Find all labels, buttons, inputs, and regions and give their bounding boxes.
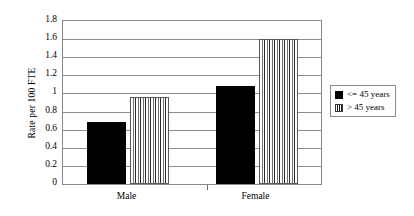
y-axis-tick-label: 1 — [52, 88, 57, 98]
legend-swatch-striped-icon — [335, 104, 343, 112]
x-axis-tick-label-male: Male — [117, 192, 137, 202]
y-axis-tick-label: 0.8 — [45, 106, 57, 116]
bar-female-series-2 — [259, 39, 298, 184]
legend-item-label: <= 45 years — [347, 90, 390, 99]
y-axis-tick-label: 0.4 — [45, 142, 57, 152]
bar-male-series-2 — [130, 97, 169, 184]
y-axis-tick-label: 1.4 — [45, 51, 57, 61]
y-axis-tick-label: 0 — [52, 178, 57, 188]
y-axis-tick-label: 1.8 — [45, 15, 57, 25]
bar-male-series-1 — [87, 122, 126, 184]
x-axis-tick-labels: MaleFemale — [62, 192, 322, 214]
plot-area — [62, 20, 322, 185]
y-axis-tick-label: 1.6 — [45, 33, 57, 43]
y-axis-tick-labels: 1.81.61.41.210.80.60.40.20 — [0, 0, 62, 216]
legend-item-label: > 45 years — [347, 103, 385, 112]
chart-legend: <= 45 years> 45 years — [330, 85, 396, 117]
legend-item-1: <= 45 years — [335, 89, 390, 100]
bar-female-series-1 — [216, 86, 255, 184]
legend-swatch-solid-icon — [335, 91, 343, 99]
category-separator-tick — [207, 185, 208, 190]
y-axis-tick-label: 1.2 — [45, 70, 57, 80]
legend-item-2: > 45 years — [335, 102, 390, 113]
y-axis-tick-label: 0.2 — [45, 160, 57, 170]
y-axis-tick-label: 0.6 — [45, 124, 57, 134]
bar-chart-figure: Rate per 100 FTE 1.81.61.41.210.80.60.40… — [0, 0, 414, 216]
x-axis-tick-label-female: Female — [242, 192, 270, 202]
